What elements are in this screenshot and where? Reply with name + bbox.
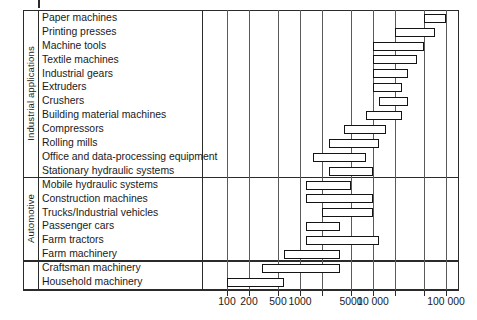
bar-range: [322, 208, 373, 217]
bar-range: [329, 139, 379, 148]
gridline-20000: [395, 10, 396, 290]
group-caption-label: Automotive: [25, 194, 36, 243]
row-label: Printing presses: [42, 25, 202, 39]
row-label: Industrial gears: [42, 67, 202, 81]
gridline-100000: [446, 10, 447, 290]
row-label: Textile machines: [42, 53, 202, 67]
gridline-5000: [351, 10, 352, 290]
bar-range: [262, 264, 340, 273]
bar-range: [284, 250, 340, 259]
axis-tick-label: 100 000: [427, 296, 465, 307]
group-column-divider: [38, 10, 39, 290]
bar-range: [313, 153, 366, 162]
row-label: Extruders: [42, 80, 202, 94]
row-label: Building material machines: [42, 108, 202, 122]
top-tick-mark: [38, 0, 40, 8]
axis-tick-label: 1000: [288, 296, 311, 307]
bar-range: [227, 278, 284, 287]
group-caption: Automotive: [23, 177, 38, 260]
row-label: Mobile hydraulic systems: [42, 178, 202, 192]
row-label: Compressors: [42, 122, 202, 136]
gridline-200: [249, 10, 250, 290]
row-label: Stationary hydraulic systems: [42, 164, 202, 178]
bar-range: [306, 181, 351, 190]
bar-range: [373, 83, 402, 92]
bar-range: [424, 14, 446, 23]
axis-tick-label: 100: [218, 296, 235, 307]
bar-range: [373, 69, 408, 78]
gridline-10000: [373, 10, 374, 290]
group-caption: [23, 260, 38, 288]
row-label: Rolling mills: [42, 136, 202, 150]
row-label: Paper machines: [42, 11, 202, 25]
bar-range: [379, 97, 408, 106]
gridline-2000: [322, 10, 323, 290]
row-label: Crushers: [42, 94, 202, 108]
axis-tick: [322, 290, 323, 296]
gridline-100: [227, 10, 228, 290]
row-label: Trucks/Industrial vehicles: [42, 206, 202, 220]
gridline-1000: [300, 10, 301, 290]
bar-range: [306, 222, 340, 231]
row-label: Construction machines: [42, 192, 202, 206]
bar-range: [329, 167, 373, 176]
gridline-500: [278, 10, 279, 290]
row-label: Machine tools: [42, 39, 202, 53]
row-label: Farm tractors: [42, 233, 202, 247]
bar-range: [366, 111, 402, 120]
axis-tick: [395, 290, 396, 296]
group-caption-label: Industrial applications: [25, 46, 36, 141]
axis-tick-label: 500: [269, 296, 286, 307]
bar-range: [373, 42, 424, 51]
row-label: Household machinery: [42, 275, 202, 289]
row-label: Passenger cars: [42, 219, 202, 233]
chart-root: Industrial applicationsAutomotive Paper …: [0, 0, 477, 320]
axis-tick: [424, 290, 425, 296]
bar-range: [395, 28, 435, 37]
bar-range: [373, 55, 417, 64]
plot-area: [203, 10, 458, 290]
bar-range: [306, 194, 373, 203]
axis-tick-label: 10 000: [357, 296, 389, 307]
row-label: Farm machinery: [42, 247, 202, 261]
group-caption: Industrial applications: [23, 10, 38, 177]
row-label: Craftsman machinery: [42, 261, 202, 275]
row-label: Office and data-processing equipment: [42, 150, 202, 164]
axis-tick-label: 200: [240, 296, 257, 307]
bar-range: [344, 125, 386, 134]
gridline-50000: [424, 10, 425, 290]
x-axis-line: [23, 290, 459, 291]
bar-range: [306, 236, 379, 245]
